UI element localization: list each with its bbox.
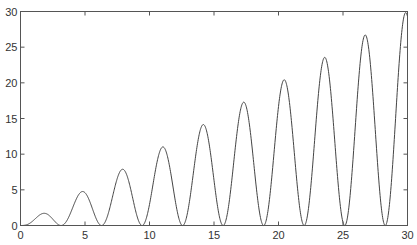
y-tick-label: 25 <box>5 41 17 53</box>
x-tick-label: 10 <box>143 229 155 241</box>
y-tick-label: 20 <box>5 77 17 89</box>
y-tick-label: 0 <box>11 220 17 232</box>
y-axis-ticks: 051015202530 <box>5 6 407 232</box>
x-tick-label: 30 <box>401 229 413 241</box>
y-tick-label: 10 <box>5 148 17 160</box>
y-tick-label: 15 <box>5 113 17 125</box>
x-tick-label: 20 <box>272 229 284 241</box>
y-tick-label: 30 <box>5 6 17 18</box>
line-chart: 051015202530 051015202530 <box>0 0 417 245</box>
data-line <box>21 13 408 226</box>
axes-frame <box>21 12 408 226</box>
x-tick-label: 15 <box>208 229 220 241</box>
x-tick-label: 5 <box>82 229 88 241</box>
y-tick-label: 5 <box>11 184 17 196</box>
x-tick-label: 0 <box>17 229 23 241</box>
x-tick-label: 25 <box>337 229 349 241</box>
x-axis-ticks: 051015202530 <box>17 12 413 242</box>
